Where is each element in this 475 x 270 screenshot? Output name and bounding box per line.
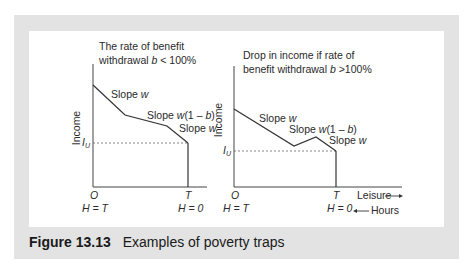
right-t-sub: H = 0 <box>327 202 353 214</box>
left-y-label: Income <box>70 111 82 146</box>
right-title-line1: Drop in income if rate of <box>243 49 355 61</box>
right-y-label: Income <box>212 103 224 138</box>
figure-caption: Figure 13.13Examples of poverty traps <box>29 234 285 250</box>
left-chart: The rate of benefit withdrawal b < 100% … <box>70 40 218 214</box>
left-iu-label: IU <box>82 136 91 149</box>
right-t-label: T <box>333 189 341 201</box>
left-slope-w1b: Slope w(1 – b) <box>147 109 215 121</box>
right-chart: Drop in income if rate of benefit withdr… <box>212 49 403 216</box>
right-iu-label: IU <box>223 144 232 157</box>
right-slope-w-2: Slope w <box>329 134 368 146</box>
arrow-left-icon <box>353 209 369 213</box>
left-origin-sub: H = T <box>82 202 110 214</box>
left-title-line2: withdrawal b < 100% <box>98 54 196 66</box>
figure-caption-text: Examples of poverty traps <box>123 234 285 250</box>
left-t-sub: H = 0 <box>178 202 204 214</box>
right-title-line2: benefit withdrawal b >100% <box>243 63 372 75</box>
left-origin-label: O <box>90 189 98 201</box>
figure-number: Figure 13.13 <box>29 234 111 250</box>
right-origin-sub: H = T <box>223 202 251 214</box>
left-title-line1: The rate of benefit <box>99 40 184 52</box>
right-origin-label: O <box>231 189 239 201</box>
left-t-label: T <box>185 189 193 201</box>
hours-label: Hours <box>371 204 399 216</box>
leisure-label: Leisure <box>357 189 392 201</box>
poverty-trap-diagram: The rate of benefit withdrawal b < 100% … <box>0 0 475 270</box>
left-slope-w-1: Slope w <box>111 88 150 100</box>
